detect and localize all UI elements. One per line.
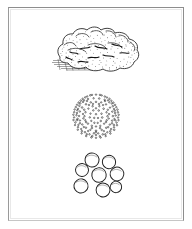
specimen-illustration-canvas [0,0,192,229]
pebble [91,167,107,183]
pebble [94,181,112,199]
specimen-fine-grain-sphere [73,93,120,139]
specimen-lumpy-aggregate [52,27,139,71]
pebble [71,176,90,195]
figure-root: Irregular lumpy aggregate with stippled … [0,0,192,229]
specimen-coarse-pebble-cluster [71,152,126,199]
pebble [108,179,124,195]
